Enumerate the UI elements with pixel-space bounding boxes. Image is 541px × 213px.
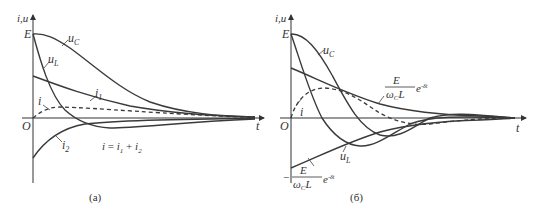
caption-a: (a) bbox=[89, 191, 102, 204]
caption-b: (б) bbox=[350, 191, 363, 204]
x-axis-label: t bbox=[256, 119, 260, 133]
label-i1: i1 bbox=[95, 86, 102, 102]
origin-label: O bbox=[22, 119, 31, 133]
label-envelope-positive: E ωCL e-δt bbox=[378, 74, 428, 104]
level-e-label: E bbox=[23, 27, 32, 41]
y-axis-label: i,u bbox=[17, 12, 29, 24]
figure: i,u E O t uC uL i1 i i2 i = bbox=[0, 0, 541, 213]
panel-a: i,u E O t uC uL i1 i i2 i = bbox=[17, 12, 264, 204]
svg-text:E: E bbox=[392, 74, 400, 86]
svg-text:E: E bbox=[299, 164, 307, 176]
svg-text:−: − bbox=[283, 171, 289, 183]
svg-text:ωCL: ωCL bbox=[293, 178, 312, 192]
level-e-label: E bbox=[281, 27, 290, 41]
equation-i-sum: i = i1 + i2 bbox=[102, 140, 142, 155]
label-ul: uL bbox=[48, 52, 59, 68]
svg-text:e-δt: e-δt bbox=[323, 173, 335, 185]
svg-text:e-δt: e-δt bbox=[416, 82, 428, 94]
curve-uc bbox=[33, 34, 255, 117]
curve-ul bbox=[33, 34, 255, 128]
svg-text:ωCL: ωCL bbox=[386, 88, 405, 102]
label-uc: uC bbox=[68, 31, 80, 47]
panel-b: i,u E O t uC i uL E ωCL bbox=[275, 12, 526, 204]
label-ul: uL bbox=[340, 149, 351, 165]
label-uc: uC bbox=[323, 43, 335, 59]
label-i: i bbox=[300, 105, 303, 119]
origin-label: O bbox=[280, 119, 289, 133]
curve-envelope-negative bbox=[291, 118, 515, 168]
label-i: i bbox=[38, 94, 41, 108]
label-i2: i2 bbox=[62, 138, 69, 154]
x-axis-label: t bbox=[516, 121, 520, 135]
y-axis-label: i,u bbox=[275, 12, 287, 24]
